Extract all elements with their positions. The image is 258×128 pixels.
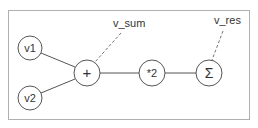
sigma-icon: Σ [205,65,214,81]
v-res-label: v_res [214,14,241,26]
node-v1-label: v1 [24,42,36,54]
node-v2-label: v2 [24,92,36,104]
node-v2: v2 [18,86,42,110]
computation-graph: v1 v2 + *2 Σ v_sum v_res [0,0,258,128]
node-plus: + [74,60,100,86]
node-times2: *2 [139,60,165,86]
v-sum-label: v_sum [113,17,145,29]
node-v1: v1 [18,36,42,60]
node-sigma: Σ [196,60,222,86]
node-times2-label: *2 [147,67,157,79]
plus-icon: + [83,64,92,81]
